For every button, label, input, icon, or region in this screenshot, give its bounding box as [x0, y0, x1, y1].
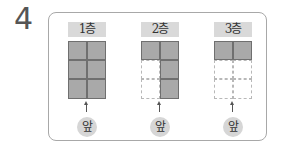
block-cell [214, 41, 233, 60]
front-label: 앞 [223, 117, 243, 137]
empty-cell [141, 60, 160, 79]
arrow-up-icon [159, 104, 160, 112]
block-cell [160, 41, 179, 60]
question-number: 4 [14, 4, 33, 34]
block-cell [87, 41, 106, 60]
front-label: 앞 [77, 117, 97, 137]
block-cell [233, 41, 252, 60]
block-cell [160, 60, 179, 79]
block-cell [87, 79, 106, 99]
empty-cell [214, 79, 233, 99]
block-cell [87, 60, 106, 79]
floor-grid [68, 41, 106, 99]
block-cell [160, 79, 179, 99]
empty-cell [214, 60, 233, 79]
block-cell [68, 60, 87, 79]
floor-2: 2층 앞 [140, 13, 180, 142]
arrow-up-icon [232, 104, 233, 112]
floor-label: 3층 [214, 22, 252, 37]
arrow-up-icon [86, 104, 87, 112]
block-cell [68, 41, 87, 60]
floor-3: 3층 앞 [213, 13, 253, 142]
floor-label: 2층 [141, 22, 179, 37]
floor-grid [214, 41, 252, 99]
block-cell [68, 79, 87, 99]
floor-1: 1층 앞 [67, 13, 107, 142]
empty-cell [141, 79, 160, 99]
block-cell [141, 41, 160, 60]
empty-cell [233, 60, 252, 79]
front-label: 앞 [150, 117, 170, 137]
floor-label: 1층 [68, 22, 106, 37]
floor-grid [141, 41, 179, 99]
empty-cell [233, 79, 252, 99]
floor-plan-panel: 1층 앞 2층 앞 3층 앞 [48, 12, 267, 141]
